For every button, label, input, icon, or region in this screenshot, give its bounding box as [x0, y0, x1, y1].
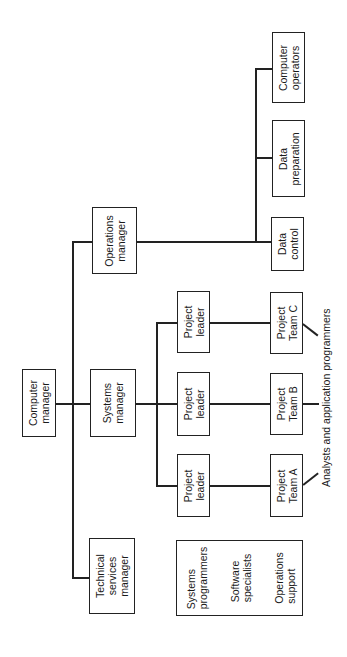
- connector-trunk-tech: [72, 577, 89, 579]
- connector-ops-branch: [137, 241, 271, 243]
- node-data-preparation: Datapreparation: [272, 120, 305, 197]
- pointer-team-a: [303, 472, 319, 485]
- connector-to-computer-operators: [255, 68, 272, 70]
- pointer-team-b: [303, 403, 319, 405]
- connector-main-trunk: [72, 241, 74, 579]
- node-support-groups: Systemsprogrammers Softwarespecialists O…: [176, 540, 303, 616]
- node-project-team-a: ProjectTeam A: [270, 454, 303, 517]
- node-data-control: Datacontrol: [271, 217, 304, 271]
- connector-pl-b-team-b: [210, 403, 270, 405]
- connector-trunk-ops: [72, 241, 92, 243]
- node-technical-services-manager: Technicalservicesmanager: [89, 538, 135, 614]
- connector-sys-vertical: [156, 322, 158, 486]
- node-project-leader-c: Projectleader: [177, 291, 210, 353]
- node-project-team-b: ProjectTeam B: [270, 373, 303, 435]
- connector-to-pl-a: [156, 485, 177, 487]
- connector-pl-c-team-c: [210, 322, 270, 324]
- node-project-leader-b: Projectleader: [177, 372, 210, 436]
- node-project-leader-a: Projectleader: [177, 454, 210, 517]
- node-computer-operators: Computeroperators: [272, 32, 305, 103]
- node-computer-manager: Computermanager: [22, 369, 56, 437]
- node-project-team-c: ProjectTeam C: [270, 292, 303, 354]
- connector-pl-a-team-a: [210, 485, 270, 487]
- node-systems-manager: Systemsmanager: [90, 369, 136, 437]
- node-operations-manager: Operationsmanager: [92, 207, 137, 274]
- pointer-team-c: [303, 323, 319, 336]
- connector-ops-vertical: [255, 68, 257, 242]
- connector-to-data-preparation: [255, 157, 272, 159]
- connector-to-pl-c: [156, 322, 177, 324]
- annotation-analysts: Analysts and application programmers: [320, 308, 332, 487]
